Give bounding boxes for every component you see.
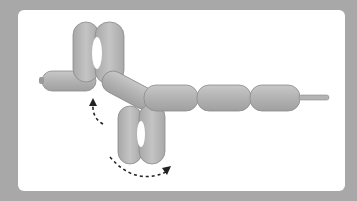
balloon-diagram	[0, 0, 357, 201]
twist-arrow-up	[89, 98, 103, 124]
balloon-bottom-loop	[118, 104, 165, 164]
balloon-body-segments	[144, 85, 329, 111]
